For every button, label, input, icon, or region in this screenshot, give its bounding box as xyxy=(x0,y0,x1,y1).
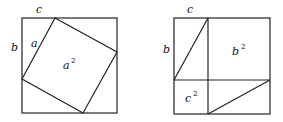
right-label-c: c xyxy=(187,3,193,16)
right-small-area-label-exp: 2 xyxy=(193,90,197,98)
pythagorean-proof-diagram: c b a a 2 c b b 2 c 2 xyxy=(0,0,283,122)
right-big-area-label-exp: 2 xyxy=(241,43,245,51)
right-figure: c b b 2 c 2 xyxy=(163,3,270,114)
left-figure: c b a a 2 xyxy=(11,3,117,113)
left-area-label-exp: 2 xyxy=(71,57,75,65)
right-big-area-label-base: b xyxy=(232,45,239,58)
right-bottom-right-diagonal xyxy=(208,80,270,114)
left-area-label-base: a xyxy=(63,59,70,72)
left-label-b: b xyxy=(11,41,18,54)
right-label-b: b xyxy=(163,43,170,56)
right-small-area-label-base: c xyxy=(185,92,191,105)
right-top-left-diagonal xyxy=(174,18,208,80)
left-label-a: a xyxy=(31,37,38,50)
left-label-c: c xyxy=(36,3,42,16)
